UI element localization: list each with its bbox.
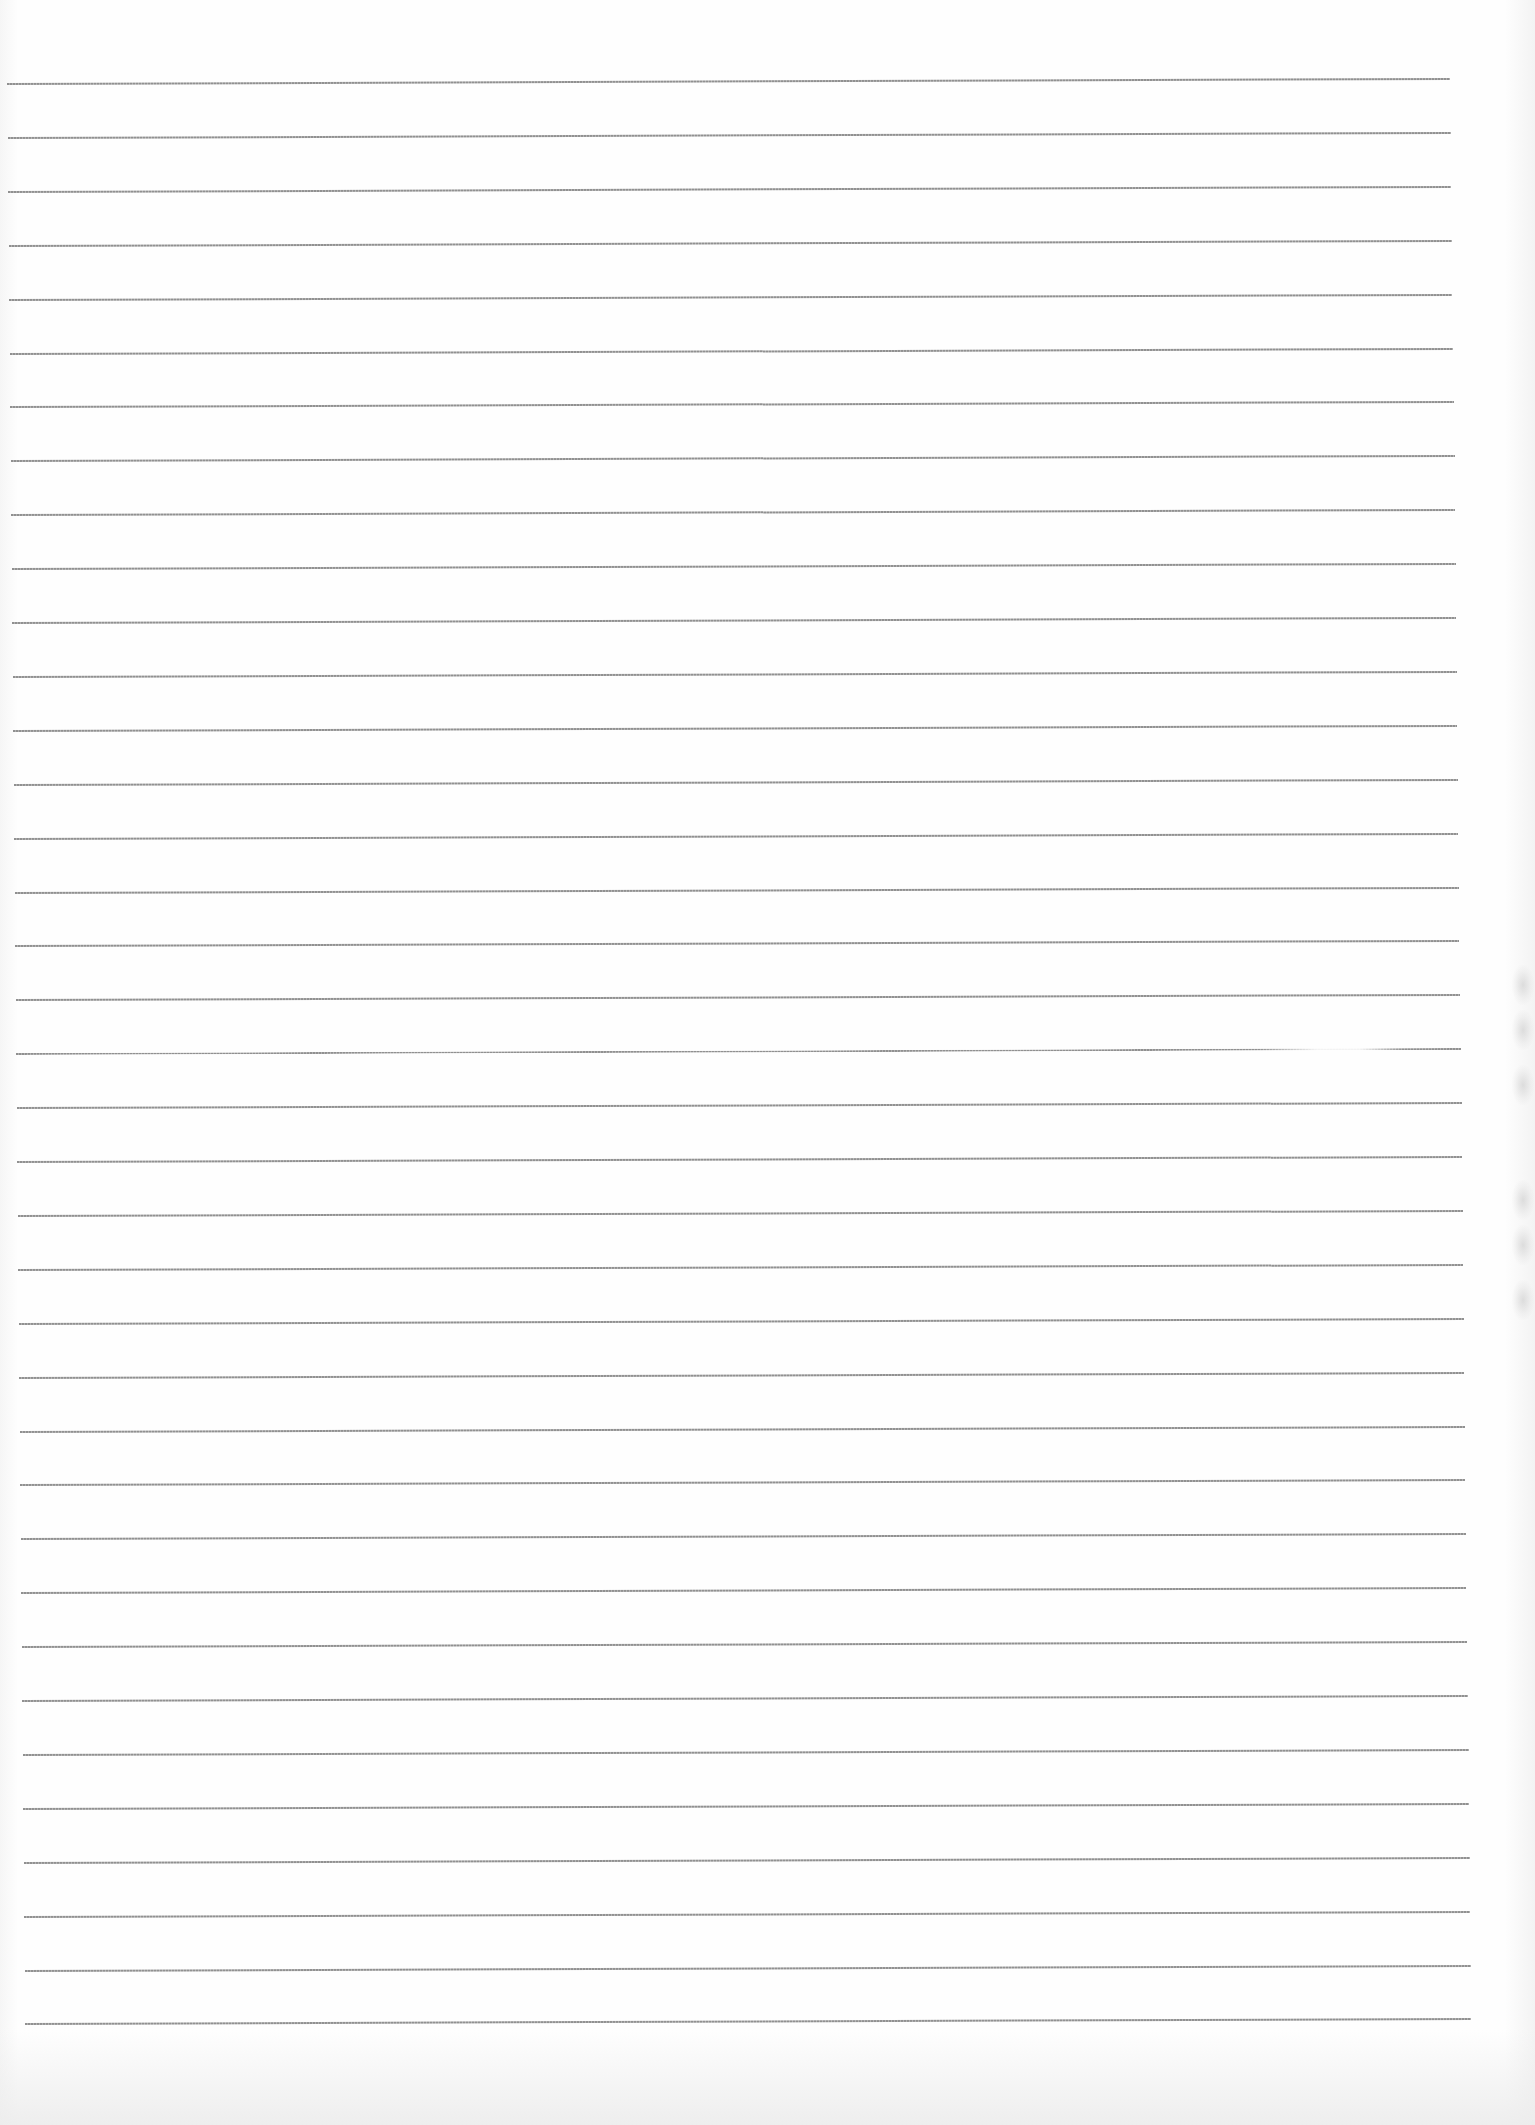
ruled-line [19, 1372, 1464, 1379]
ruled-line [11, 563, 1455, 570]
ruled-line [14, 886, 1458, 893]
ruled-line [20, 1479, 1465, 1486]
ruled-line [8, 240, 1451, 247]
ruled-line [21, 1587, 1466, 1594]
ruled-line [11, 509, 1455, 516]
ruled-line [24, 1964, 1470, 1971]
ruled-line [24, 1911, 1470, 1918]
ruled-line [20, 1533, 1465, 1540]
bleed-through-mark [1512, 1180, 1534, 1220]
ruled-line [22, 1695, 1467, 1702]
ruled-line [19, 1425, 1464, 1432]
ruled-line [18, 1318, 1463, 1325]
ruled-line [12, 671, 1456, 678]
ruled-line [22, 1749, 1468, 1756]
ruled-line [10, 455, 1454, 462]
ruled-line [23, 1857, 1469, 1864]
ruled-line [18, 1264, 1463, 1271]
ruled-line [17, 1210, 1462, 1217]
ruled-line [9, 347, 1452, 354]
bleed-through-mark [1512, 1225, 1534, 1265]
ruled-line [17, 1156, 1462, 1163]
ruled-line [10, 401, 1453, 408]
ruled-line [13, 725, 1457, 732]
ruled-line [8, 186, 1451, 193]
ruled-line [12, 617, 1456, 624]
bleed-through-mark [1512, 1280, 1534, 1320]
ruled-line [25, 2018, 1471, 2025]
ruled-line [15, 994, 1459, 1001]
ruled-line [16, 1102, 1461, 1109]
lined-paper-page [0, 0, 1535, 2125]
ruled-line [15, 940, 1459, 947]
ruled-line [7, 132, 1450, 139]
ruled-line [7, 78, 1450, 85]
bleed-through-mark [1512, 965, 1534, 1005]
ruled-line [9, 294, 1452, 301]
bleed-through-mark [1512, 1065, 1534, 1105]
ruled-line [14, 833, 1458, 840]
ruled-line [23, 1803, 1469, 1810]
ruled-line [21, 1641, 1466, 1648]
ruled-line [13, 779, 1457, 786]
bleed-through-mark [1512, 1010, 1534, 1050]
ruled-line [16, 1048, 1460, 1055]
